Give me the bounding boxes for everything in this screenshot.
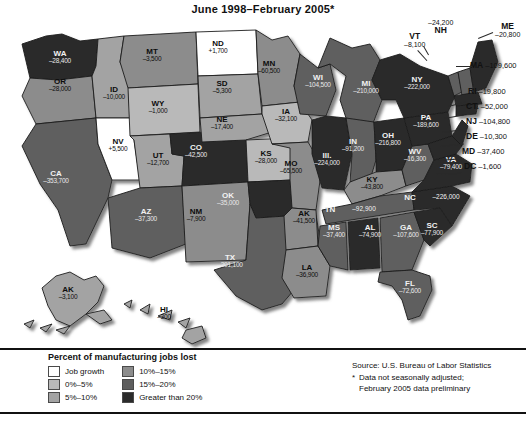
state-label-nd: ND+1,700 bbox=[196, 40, 240, 55]
legend-label-0-5: 0%–5% bbox=[65, 380, 93, 389]
legend-title: Percent of manufacturing jobs lost bbox=[48, 352, 299, 362]
state-label-tn: TN bbox=[320, 206, 340, 214]
legend-swatch-15-20 bbox=[122, 379, 134, 390]
map-figure: June 1998–February 2005* bbox=[0, 0, 526, 424]
state-label-id: ID–10,000 bbox=[92, 86, 136, 101]
state-label-pa: PA–189,600 bbox=[402, 114, 450, 129]
state-label-dc: DC–1,600 bbox=[464, 161, 501, 171]
us-map: WA–28,400 OR–28,000 ID–10,000 MT–3,500 N… bbox=[0, 14, 526, 350]
legend-item-15-20: 15%–20% bbox=[122, 379, 202, 390]
leader-line-ma bbox=[456, 66, 472, 67]
state-label-nj: NJ–104,800 bbox=[466, 116, 510, 126]
state-label-ca: CA–353,700 bbox=[30, 170, 82, 185]
legend-label-5-10: 5%–10% bbox=[65, 393, 97, 402]
state-label-sd: SD–5,300 bbox=[200, 80, 244, 95]
state-label-ok: OK–35,000 bbox=[206, 192, 250, 207]
state-value-nc: –226,000 bbox=[422, 194, 470, 201]
legend-item-5-10: 5%–10% bbox=[48, 392, 104, 403]
legend-label-15-20: 15%–20% bbox=[139, 380, 175, 389]
state-value-tn: –92,900 bbox=[342, 206, 386, 213]
state-label-nc: NC bbox=[400, 194, 420, 202]
state-label-mn: MN–60,500 bbox=[246, 60, 292, 75]
state-fl bbox=[378, 270, 432, 320]
legend-swatch-10-15 bbox=[122, 366, 134, 377]
state-label-wa: WA–28,400 bbox=[38, 50, 82, 65]
state-label-mi: MI–210,000 bbox=[340, 80, 392, 95]
legend-item-job-growth: Job growth bbox=[48, 366, 104, 377]
state-label-az: AZ–37,300 bbox=[124, 208, 168, 223]
legend-swatch-5-10 bbox=[48, 392, 60, 403]
state-label-il: Ill.–224,000 bbox=[304, 152, 350, 167]
state-label-co: CO–42,500 bbox=[174, 144, 218, 159]
legend: Percent of manufacturing jobs lost Job g… bbox=[34, 352, 299, 402]
alaska-panhandle bbox=[86, 310, 112, 324]
legend-item-0-5: 0%–5% bbox=[48, 379, 104, 390]
legend-item-greater-20: Greater than 20% bbox=[122, 392, 202, 403]
footnote-line-2: February 2005 data preliminary bbox=[352, 383, 522, 395]
legend-label-10-15: 10%–15% bbox=[139, 367, 175, 376]
state-label-nm: NM–7,900 bbox=[174, 208, 218, 223]
state-label-wi: WI–104,500 bbox=[292, 74, 344, 89]
state-label-me: ME–20,800 bbox=[495, 22, 520, 38]
state-label-nh: –24,200 NH bbox=[428, 19, 453, 35]
state-label-md: MD–37,400 bbox=[462, 146, 504, 156]
footnote: * Data not seasonally adjusted; bbox=[352, 372, 522, 384]
state-label-fl: FL–72,600 bbox=[388, 280, 432, 295]
legend-column-left: Job growth 0%–5% 5%–10% bbox=[48, 366, 104, 403]
state-label-wv: WV–16,300 bbox=[398, 148, 432, 163]
divider-top bbox=[0, 348, 526, 350]
legend-swatch-0-5 bbox=[48, 379, 60, 390]
legend-label-job-growth: Job growth bbox=[65, 367, 104, 376]
source-line: Source: U.S. Bureau of Labor Statistics bbox=[352, 360, 522, 372]
state-label-la: LA–36,900 bbox=[284, 264, 330, 279]
legend-column-right: 10%–15% 15%–20% Greater than 20% bbox=[122, 366, 202, 403]
state-label-sc: SC–77,900 bbox=[410, 222, 454, 237]
state-label-ny: NY–222,000 bbox=[392, 76, 442, 91]
state-label-nv: NV+5,500 bbox=[96, 138, 140, 153]
state-label-de: DE–10,300 bbox=[466, 131, 507, 141]
state-label-ne: NE–17,400 bbox=[200, 116, 244, 131]
legend-label-greater-20: Greater than 20% bbox=[139, 393, 202, 402]
state-label-ma: MA–109,600 bbox=[470, 60, 517, 70]
footnote-marker: * bbox=[352, 372, 355, 384]
legend-swatch-job-growth bbox=[48, 366, 60, 377]
footnote-line-1: Data not seasonally adjusted; bbox=[359, 373, 464, 382]
state-label-ky: KY–43,800 bbox=[348, 176, 396, 191]
state-label-mt: MT–3,500 bbox=[130, 48, 174, 63]
legend-item-10-15: 10%–15% bbox=[122, 366, 202, 377]
divider-bottom bbox=[0, 412, 526, 414]
state-label-hawaii: HI–300 bbox=[142, 306, 186, 321]
state-label-oh: OH–216,800 bbox=[364, 132, 412, 147]
state-label-tx: TX–201,100 bbox=[204, 254, 256, 269]
state-label-ct: CT.–52,000 bbox=[466, 101, 508, 111]
state-label-alaska: AK–3,100 bbox=[46, 286, 90, 301]
source-note: Source: U.S. Bureau of Labor Statistics … bbox=[352, 360, 522, 395]
state-label-ia: IA–32,100 bbox=[264, 108, 308, 123]
legend-swatch-greater-20 bbox=[122, 392, 134, 403]
state-label-wy: WY–1,000 bbox=[136, 100, 180, 115]
state-label-ri: RI–19,800 bbox=[468, 86, 506, 96]
state-label-or: OR–28,000 bbox=[38, 78, 82, 93]
